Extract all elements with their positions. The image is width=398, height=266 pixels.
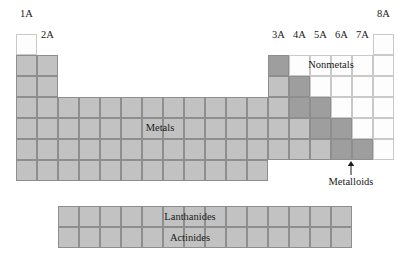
element-cell-metal [247,118,268,139]
series-cell-metal [289,206,310,227]
element-cell-nonmetal [16,34,37,55]
element-cell-metal [37,55,58,76]
element-cell-metalloid [352,139,373,160]
element-cell-metal [142,97,163,118]
series-cell-metal [331,227,352,248]
series-cell-metal [79,227,100,248]
group-label-2a: 2A [37,29,58,41]
element-cell-metal [268,118,289,139]
group-label-7a: 7A [352,29,373,41]
element-cell-metal [205,160,226,181]
element-cell-metal [268,97,289,118]
element-cell-nonmetal [373,97,394,118]
metalloids-label: Metalloids [311,176,391,188]
element-cell-metal [100,118,121,139]
element-cell-metal [37,118,58,139]
element-cell-metal [16,139,37,160]
element-cell-metal [226,160,247,181]
element-cell-metal [247,160,268,181]
element-cell-metal [121,139,142,160]
element-cell-metalloid [310,97,331,118]
series-cell-metal [268,227,289,248]
series-cell-metal [121,227,142,248]
group-label-8a: 8A [373,8,394,20]
element-cell-metal [142,139,163,160]
element-cell-metal [121,160,142,181]
series-cell-metal [310,227,331,248]
element-cell-metal [247,139,268,160]
element-cell-metal [100,160,121,181]
element-cell-metal [16,76,37,97]
element-cell-nonmetal [352,118,373,139]
element-cell-metal [247,97,268,118]
element-cell-metal [289,118,310,139]
element-cell-metal [205,97,226,118]
group-label-3a: 3A [268,29,289,41]
element-cell-metal [205,139,226,160]
series-cell-metal [79,206,100,227]
series-cell-metal [268,206,289,227]
element-cell-metal [289,139,310,160]
element-cell-metal [184,139,205,160]
element-cell-metal [184,160,205,181]
element-cell-metal [184,97,205,118]
element-cell-metal [37,97,58,118]
element-cell-metal [163,139,184,160]
element-cell-metal [58,118,79,139]
element-cell-metal [37,76,58,97]
element-cell-metal [16,118,37,139]
series-cell-metal [100,206,121,227]
element-cell-metal [226,139,247,160]
element-cell-metal [163,97,184,118]
element-cell-metal [16,97,37,118]
element-cell-metal [58,97,79,118]
region-label-nonmetals: Nonmetals [291,59,371,71]
element-cell-nonmetal [352,97,373,118]
group-label-5a: 5A [310,29,331,41]
element-cell-nonmetal [373,118,394,139]
series-cell-metal [247,206,268,227]
periodic-table-diagram: 1A2A3A4A5A6A7A8A MetalsNonmetals Lanthan… [0,0,398,266]
element-cell-metal [79,160,100,181]
element-cell-metal [205,118,226,139]
element-cell-nonmetal [373,55,394,76]
element-cell-metal [142,160,163,181]
element-cell-metalloid [310,118,331,139]
series-cell-metal [331,206,352,227]
series-cell-metal [247,227,268,248]
element-cell-metal [79,139,100,160]
series-cell-metal [58,227,79,248]
group-label-4a: 4A [289,29,310,41]
element-cell-metalloid [289,97,310,118]
element-cell-metal [16,160,37,181]
element-cell-metal [16,55,37,76]
element-cell-metal [58,139,79,160]
element-cell-metal [121,97,142,118]
element-cell-metal [226,118,247,139]
group-label-1a: 1A [16,8,37,20]
element-cell-metal [268,139,289,160]
element-cell-metal [163,160,184,181]
element-cell-metal [226,97,247,118]
element-cell-nonmetal [352,76,373,97]
element-cell-metalloid [331,139,352,160]
series-cell-metal [121,206,142,227]
series-cell-metal [310,206,331,227]
element-cell-metal [58,160,79,181]
series-cell-metal [289,227,310,248]
element-cell-metal [100,97,121,118]
series-cell-metal [100,227,121,248]
series-label-actinides: Actinides [150,232,230,244]
element-cell-metal [37,160,58,181]
element-cell-metal [310,139,331,160]
element-cell-nonmetal [373,139,394,160]
element-cell-nonmetal [373,76,394,97]
group-label-6a: 6A [331,29,352,41]
element-cell-nonmetal [373,34,394,55]
element-cell-nonmetal [331,97,352,118]
element-cell-metal [268,76,289,97]
region-label-metals: Metals [120,122,200,134]
element-cell-metal [79,97,100,118]
element-cell-metalloid [268,55,289,76]
up-arrow-icon [346,161,356,175]
